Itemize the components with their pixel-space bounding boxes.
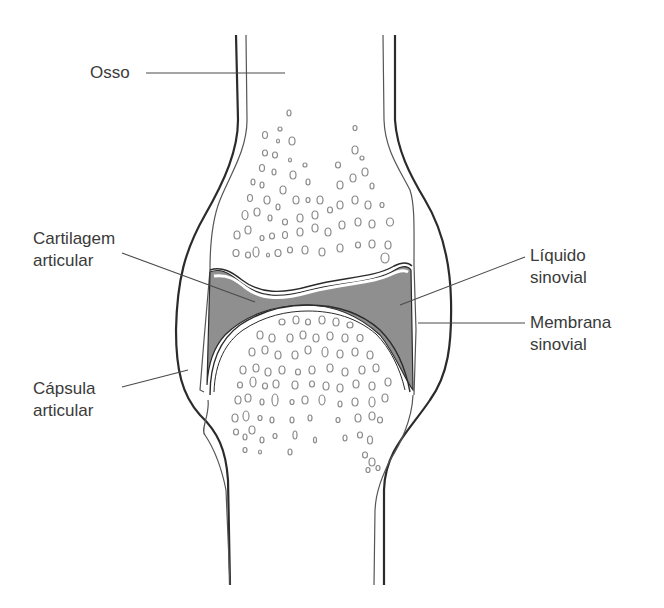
bone-right-inner	[383, 35, 414, 265]
leader-liquido	[400, 257, 525, 305]
label-capsula-articular: Cápsula articular	[33, 378, 95, 422]
leader-capsula	[122, 370, 188, 387]
synovial-joint-diagram	[0, 0, 664, 608]
label-membrana-sinovial: Membrana sinovial	[530, 312, 611, 356]
label-osso: Osso	[90, 62, 130, 84]
bone-left-lower	[204, 400, 230, 585]
upper-bone-pores	[233, 110, 394, 263]
bone-left-inner	[210, 35, 247, 270]
leader-lines	[122, 73, 525, 387]
synovial-fluid	[207, 267, 413, 390]
membrane-right	[414, 265, 416, 395]
lower-bone-pores	[232, 316, 391, 473]
label-liquido-sinovial: Líquido sinovial	[530, 245, 587, 289]
label-cartilagem-articular: Cartilagem articular	[33, 228, 115, 272]
